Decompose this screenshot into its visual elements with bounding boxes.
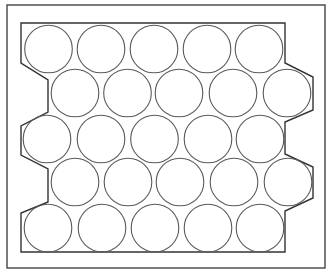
circle-r4-c1 (51, 158, 99, 206)
circle-r1-c5 (235, 25, 283, 73)
circle-r4-c3 (156, 158, 204, 206)
circle-grid (23, 25, 312, 252)
circle-r2-c4 (209, 69, 257, 117)
circle-r3-c5 (236, 115, 284, 163)
circle-r5-c5 (236, 204, 284, 252)
circle-r3-c4 (184, 115, 232, 163)
outer-frame (7, 5, 325, 268)
diagram-canvas (0, 0, 332, 274)
circle-r2-c2 (104, 69, 152, 117)
circle-r4-c5 (264, 158, 312, 206)
circle-r4-c4 (210, 158, 258, 206)
circle-r1-c3 (130, 25, 178, 73)
circle-r4-c2 (104, 158, 152, 206)
circle-r3-c3 (131, 115, 179, 163)
circle-r1-c2 (77, 25, 125, 73)
circle-packing-diagram (0, 0, 332, 274)
circle-r1-c4 (183, 25, 231, 73)
circle-r2-c3 (155, 69, 203, 117)
circle-r5-c1 (24, 204, 72, 252)
circle-r3-c2 (77, 115, 125, 163)
inner-boundary-outline (21, 23, 313, 252)
circle-r1-c1 (25, 25, 73, 73)
circle-r5-c3 (131, 204, 179, 252)
circle-r2-c1 (51, 69, 99, 117)
circle-r5-c4 (184, 204, 232, 252)
circle-r3-c1 (23, 115, 71, 163)
circle-r2-c5 (263, 69, 311, 117)
circle-r5-c2 (78, 204, 126, 252)
